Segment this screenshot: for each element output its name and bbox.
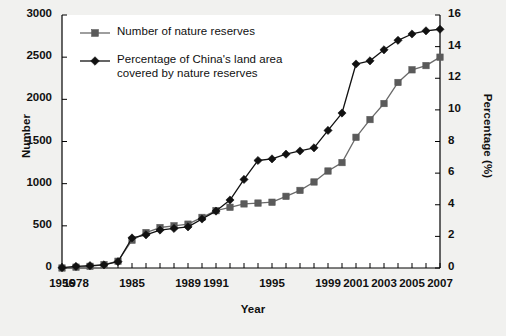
ytick-right-label: 0 xyxy=(448,260,488,272)
legend-label-number: Number of nature reserves xyxy=(117,25,255,37)
ytick-right-label: 2 xyxy=(448,228,488,240)
series-number-marker xyxy=(227,204,233,210)
legend-label-percentage: Percentage of China's land area xyxy=(117,53,283,65)
chart-figure: 0500100015002000250030000246810121416195… xyxy=(0,0,506,336)
legend-label-percentage-line2: covered by nature reserves xyxy=(117,67,258,79)
series-number-marker xyxy=(269,199,275,205)
xtick-label: 1995 xyxy=(247,277,297,289)
series-number-marker xyxy=(381,100,387,106)
ytick-right-label: 4 xyxy=(448,197,488,209)
series-number-marker xyxy=(395,79,401,85)
series-number-marker xyxy=(353,134,359,140)
xtick-label: 1985 xyxy=(107,277,157,289)
ytick-left-label: 0 xyxy=(0,260,52,272)
ytick-left-label: 2500 xyxy=(0,49,52,61)
series-number-marker xyxy=(255,200,261,206)
ytick-left-label: 3000 xyxy=(0,7,52,19)
series-number-marker xyxy=(423,62,429,68)
series-number-marker xyxy=(283,193,289,199)
xtick-label: 1978 xyxy=(51,277,101,289)
series-number-marker xyxy=(297,187,303,193)
y-axis-left-title: Number xyxy=(20,96,32,176)
xtick-label: 2007 xyxy=(415,277,465,289)
series-number-marker xyxy=(339,159,345,165)
y-axis-right-title: Percentage (%) xyxy=(482,76,494,196)
ytick-right-label: 14 xyxy=(448,39,488,51)
series-number-marker xyxy=(325,168,331,174)
xtick-label: 1991 xyxy=(191,277,241,289)
series-number-marker xyxy=(311,179,317,185)
x-axis-title: Year xyxy=(203,303,303,315)
ytick-left-label: 500 xyxy=(0,218,52,230)
series-number-marker xyxy=(437,54,443,60)
legend-marker-number xyxy=(92,30,99,37)
series-number-marker xyxy=(367,116,373,122)
ytick-right-label: 16 xyxy=(448,7,488,19)
ytick-left-label: 1000 xyxy=(0,176,52,188)
series-number-marker xyxy=(409,67,415,73)
series-number-marker xyxy=(241,201,247,207)
